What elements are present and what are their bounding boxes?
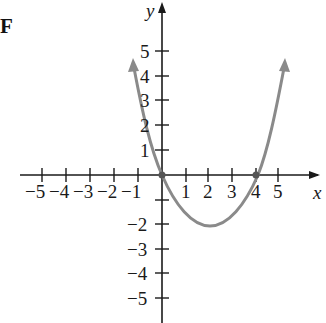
x-tick-label: 5 <box>273 182 283 201</box>
y-tick-label: 3 <box>140 91 150 110</box>
x-tick-label: −5 <box>25 182 45 201</box>
y-tick-label: −4 <box>127 264 147 283</box>
x-intercept-4-point <box>253 172 260 179</box>
x-axis-label: x <box>313 182 321 204</box>
y-tick-label: −5 <box>127 289 147 308</box>
y-axis-arrow-icon <box>158 2 166 13</box>
origin-point <box>159 172 166 179</box>
x-tick-label: −4 <box>49 182 69 201</box>
x-axis-arrow-icon <box>309 171 320 179</box>
x-tick-label: 2 <box>203 182 213 201</box>
plot-area <box>0 0 326 323</box>
y-tick-label: 1 <box>140 141 150 160</box>
y-tick-label: −3 <box>127 240 147 259</box>
curve-left-arrow-icon <box>128 58 139 72</box>
x-tick-label: −3 <box>73 182 93 201</box>
x-tick-label: 4 <box>251 182 261 201</box>
x-tick-label: −1 <box>121 182 141 201</box>
y-tick-label: 5 <box>140 42 150 61</box>
y-tick-label: 2 <box>140 116 150 135</box>
y-axis-label: y <box>146 0 154 22</box>
parabola-curve <box>134 68 284 226</box>
y-tick-label: 4 <box>140 67 150 86</box>
curve-right-arrow-icon <box>279 58 290 72</box>
x-tick-label: 3 <box>227 182 237 201</box>
y-tick-label: −2 <box>127 215 147 234</box>
x-tick-label: −2 <box>97 182 117 201</box>
x-tick-label: 1 <box>181 182 191 201</box>
graph-figure: F <box>0 0 326 323</box>
